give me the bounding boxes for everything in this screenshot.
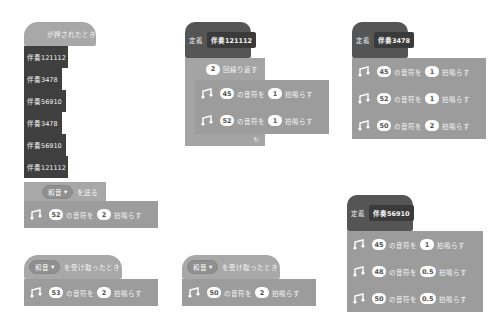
beats-input[interactable]: 1 bbox=[268, 115, 282, 126]
when-flag-clicked-hat[interactable]: が押されたとき bbox=[24, 22, 96, 46]
play-note-block[interactable]: 48 の音符を 0.5 拍鳴らす bbox=[347, 258, 483, 285]
when-receive-hat[interactable]: 和音 ▾ を受け取ったとき bbox=[24, 255, 122, 279]
beats-input[interactable]: 1 bbox=[268, 88, 282, 99]
music-note-icon bbox=[358, 93, 370, 104]
call-block[interactable]: 伴奏3478 bbox=[24, 68, 62, 90]
note-input[interactable]: 45 bbox=[372, 239, 386, 250]
beats-input[interactable]: 0.5 bbox=[420, 293, 436, 304]
call-block[interactable]: 伴奏56910 bbox=[24, 90, 66, 112]
repeat-footer: ↻ bbox=[185, 134, 265, 146]
music-note-icon bbox=[30, 209, 42, 220]
play-note-block[interactable]: 45 の音符を 1 拍鳴らす bbox=[347, 231, 483, 258]
note-input[interactable]: 52 bbox=[220, 115, 234, 126]
define-hat[interactable]: 定義 伴奏3478 bbox=[352, 22, 408, 58]
beats-input[interactable]: 0.5 bbox=[420, 266, 436, 277]
beats-input[interactable]: 2 bbox=[97, 287, 111, 298]
music-note-icon bbox=[353, 293, 365, 304]
note-input[interactable]: 50 bbox=[207, 287, 221, 298]
note-input[interactable]: 45 bbox=[377, 66, 391, 77]
define-hat[interactable]: 定義 伴奏56910 bbox=[347, 195, 413, 231]
define-hat[interactable]: 定義 伴奏121112 bbox=[185, 22, 251, 58]
loop-arrow-icon: ↻ bbox=[254, 136, 259, 144]
note-input[interactable]: 53 bbox=[49, 287, 63, 298]
note-input[interactable]: 50 bbox=[377, 120, 391, 131]
note-input[interactable]: 50 bbox=[372, 293, 386, 304]
custom-block-prototype[interactable]: 伴奏3478 bbox=[374, 32, 414, 48]
beats-input[interactable]: 1 bbox=[425, 66, 439, 77]
play-note-block[interactable]: 45 の音符を 1 拍鳴らす bbox=[352, 58, 486, 85]
green-flag-icon bbox=[40, 30, 45, 38]
play-note-block[interactable]: 53 の音符を 2 拍鳴らす bbox=[24, 279, 158, 306]
beats-input[interactable]: 2 bbox=[255, 287, 269, 298]
beats-input[interactable]: 2 bbox=[425, 120, 439, 131]
message-dropdown[interactable]: 和音 ▾ bbox=[42, 185, 73, 199]
custom-block-prototype[interactable]: 伴奏56910 bbox=[369, 205, 414, 221]
repeat-block[interactable]: 2 回繰り返す bbox=[185, 58, 265, 80]
music-note-icon bbox=[353, 239, 365, 250]
call-block[interactable]: 伴奏3478 bbox=[24, 112, 62, 134]
play-note-block[interactable]: 52 の音符を 1 拍鳴らす bbox=[352, 85, 486, 112]
music-note-icon bbox=[188, 287, 200, 298]
repeat-count-input[interactable]: 2 bbox=[206, 64, 220, 75]
repeat-arm bbox=[185, 80, 195, 135]
call-block[interactable]: 伴奏56910 bbox=[24, 134, 66, 156]
play-note-block[interactable]: 50 の音符を 2 拍鳴らす bbox=[352, 112, 486, 139]
note-input[interactable]: 52 bbox=[377, 93, 391, 104]
call-block[interactable]: 伴奏121112 bbox=[24, 156, 68, 178]
note-input[interactable]: 48 bbox=[372, 266, 386, 277]
music-note-icon bbox=[353, 266, 365, 277]
note-input[interactable]: 45 bbox=[220, 88, 234, 99]
custom-block-prototype[interactable]: 伴奏121112 bbox=[207, 32, 256, 48]
beats-input[interactable]: 1 bbox=[420, 239, 434, 250]
music-note-icon bbox=[30, 287, 42, 298]
when-receive-hat[interactable]: 和音 ▾ を受け取ったとき bbox=[182, 255, 280, 279]
play-note-block[interactable]: 50 の音符を 0.5 拍鳴らす bbox=[347, 285, 483, 312]
message-dropdown[interactable]: 和音 ▾ bbox=[29, 260, 60, 274]
note-input[interactable]: 52 bbox=[49, 209, 63, 220]
play-note-block[interactable]: 52 の音符を 1 拍鳴らす bbox=[195, 107, 329, 134]
message-dropdown[interactable]: 和音 ▾ bbox=[187, 260, 218, 274]
play-note-block[interactable]: 50 の音符を 2 拍鳴らす bbox=[182, 279, 316, 306]
music-note-icon bbox=[201, 88, 213, 99]
beats-input[interactable]: 2 bbox=[97, 209, 111, 220]
broadcast-block[interactable]: 和音 ▾ を送る bbox=[24, 182, 106, 201]
call-block[interactable]: 伴奏121112 bbox=[24, 46, 68, 68]
play-note-block[interactable]: 45 の音符を 1 拍鳴らす bbox=[195, 80, 329, 107]
music-note-icon bbox=[358, 120, 370, 131]
music-note-icon bbox=[201, 115, 213, 126]
music-note-icon bbox=[358, 66, 370, 77]
beats-input[interactable]: 1 bbox=[425, 93, 439, 104]
play-note-block[interactable]: 52 の音符を 2 拍鳴らす bbox=[24, 201, 158, 228]
